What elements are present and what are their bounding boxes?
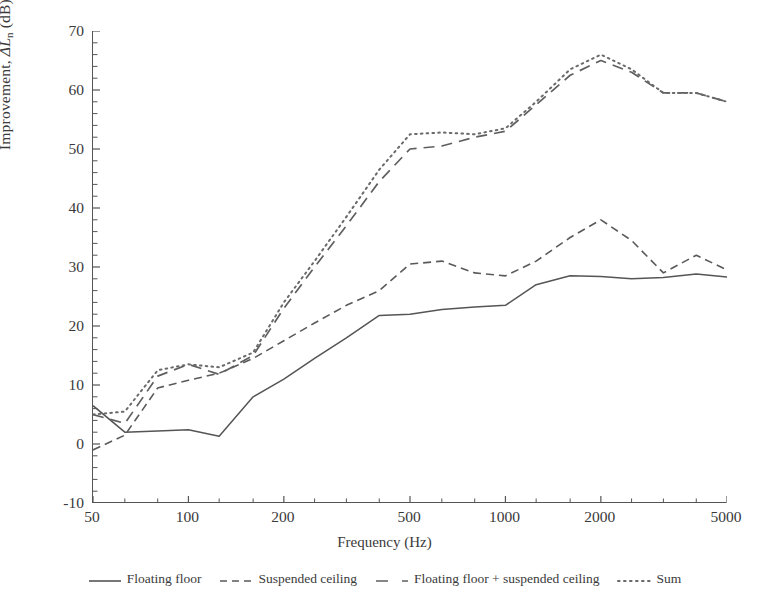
x-tick-label: 500	[397, 509, 420, 525]
series-line-0	[93, 274, 727, 436]
legend-label: Sum	[656, 572, 681, 586]
chart-legend: Floating floorSuspended ceilingFloating …	[0, 572, 769, 586]
x-axis-title: Frequency (Hz)	[0, 534, 769, 551]
legend-swatch-dashed-icon	[219, 574, 253, 584]
x-tick-label: 50	[84, 509, 100, 525]
legend-swatch-solid-icon	[88, 574, 122, 584]
plot-canvas	[93, 31, 727, 503]
series-line-1	[93, 220, 727, 450]
y-tick-label: 60	[38, 82, 84, 98]
y-axis-title-prefix: Improvement,	[0, 56, 13, 150]
legend-item-0[interactable]: Floating floor	[88, 572, 202, 586]
y-tick-label: 70	[38, 23, 84, 39]
legend-label: Suspended ceiling	[258, 572, 357, 586]
legend-label: Floating floor	[127, 572, 202, 586]
legend-swatch-longdash-icon	[375, 574, 409, 584]
y-axis-title-symbol: ΔL	[0, 38, 13, 56]
y-tick-label: 20	[38, 318, 84, 334]
legend-item-1[interactable]: Suspended ceiling	[219, 572, 357, 586]
y-tick-label: 0	[38, 436, 84, 452]
y-tick-label: 40	[38, 200, 84, 216]
legend-item-3[interactable]: Sum	[617, 572, 681, 586]
x-tick-label: 1000	[489, 509, 520, 525]
y-axis-title-subscript: n	[3, 32, 15, 38]
x-tick-label: 100	[176, 509, 199, 525]
y-tick-label: -10	[38, 495, 84, 511]
chart-figure: Improvement, ΔLn (dB) -10010203040506070…	[0, 0, 769, 613]
x-axis-tick-labels: 50100200500100020005000	[92, 509, 726, 531]
y-axis-tick-labels: -10010203040506070	[30, 0, 84, 503]
y-axis-title-units: (dB)	[0, 0, 13, 32]
legend-swatch-dotted-icon	[617, 574, 651, 584]
series-line-3	[93, 55, 727, 415]
legend-label: Floating floor + suspended ceiling	[414, 572, 599, 586]
y-tick-label: 50	[38, 141, 84, 157]
x-tick-label: 5000	[711, 509, 742, 525]
series-line-2	[93, 61, 727, 424]
plot-area	[92, 31, 726, 503]
x-tick-label: 2000	[584, 509, 615, 525]
y-tick-label: 30	[38, 259, 84, 275]
x-tick-label: 200	[271, 509, 294, 525]
y-tick-label: 10	[38, 377, 84, 393]
legend-item-2[interactable]: Floating floor + suspended ceiling	[375, 572, 599, 586]
y-axis-title: Improvement, ΔLn (dB)	[0, 0, 15, 150]
